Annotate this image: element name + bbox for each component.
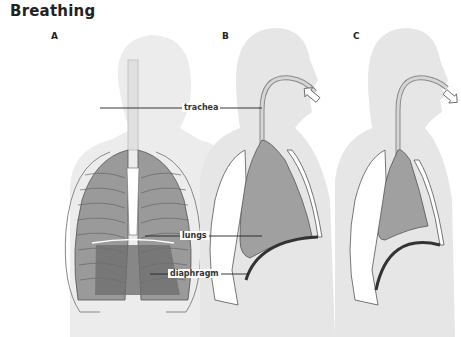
airflow-out-arrow [441, 87, 461, 106]
label-trachea: trachea [182, 103, 220, 112]
label-lungs: lungs [180, 231, 209, 240]
panel-label-a: A [51, 31, 58, 41]
panel-label-b: B [222, 31, 229, 41]
label-diaphragm: diaphragm [168, 269, 221, 278]
panel-label-c: C [353, 31, 360, 41]
breathing-diagram [0, 0, 461, 337]
